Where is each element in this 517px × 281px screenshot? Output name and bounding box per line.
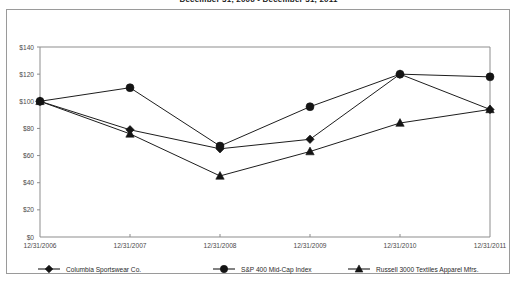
y-axis-tick-label: $140 [19,44,34,51]
legend-label: Russell 3000 Textiles Apparel Mfrs. [376,266,479,274]
series-line-diamond [40,74,490,149]
line-chart: $0$20$40$60$80$100$120$140 12/31/200612/… [0,0,517,281]
series-line-triangle [40,101,490,176]
data-point-diamond [306,135,314,143]
y-axis-tick-label: $120 [19,71,34,78]
x-axis-tick-label: 12/31/2010 [383,242,416,249]
x-axis-tick-label: 12/31/2011 [474,242,507,249]
data-point-circle [216,142,224,150]
legend-circle-marker [220,265,227,272]
data-point-circle [306,103,314,111]
y-axis: $0$20$40$60$80$100$120$140 [19,44,490,241]
y-axis-tick-label: $100 [19,98,34,105]
legend-diamond-marker [45,265,53,273]
data-point-circle [126,84,134,92]
x-axis: 12/31/200612/31/200712/31/200812/31/2009… [23,234,506,249]
x-axis-tick-label: 12/31/2007 [113,242,146,249]
series-layer [36,70,494,179]
chart-legend: Columbia Sportswear Co.S&P 400 Mid-Cap I… [38,265,479,274]
x-axis-tick-label: 12/31/2006 [23,242,56,249]
y-axis-tick-label: $40 [23,179,34,186]
y-axis-tick-label: $80 [23,125,34,132]
x-axis-tick-label: 12/31/2009 [293,242,326,249]
y-axis-tick-label: $60 [23,152,34,159]
x-axis-tick-label: 12/31/2008 [203,242,236,249]
legend-label: S&P 400 Mid-Cap Index [241,266,312,274]
y-axis-tick-label: $20 [23,206,34,213]
legend-label: Columbia Sportswear Co. [66,266,141,274]
data-point-circle [396,70,404,78]
data-point-circle [486,73,494,81]
series-line-circle [40,74,490,146]
y-axis-tick-label: $0 [27,234,35,241]
